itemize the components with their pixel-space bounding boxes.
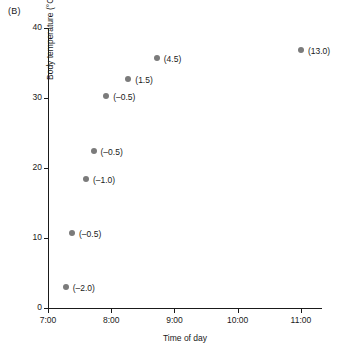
x-tick-mark [48, 309, 49, 313]
data-point-label: (–0.5) [101, 147, 123, 157]
x-tick-mark [111, 309, 112, 313]
panel-label: (B) [8, 6, 21, 16]
data-point-label: (–2.0) [73, 283, 95, 293]
y-tick-label: 30 [16, 92, 42, 102]
x-axis-line [48, 308, 322, 309]
y-tick-label: 20 [16, 162, 42, 172]
data-point-label: (13.0) [308, 46, 330, 56]
data-point [69, 230, 75, 236]
data-point-label: (4.5) [164, 54, 181, 64]
y-tick-mark [44, 238, 48, 239]
y-tick-label: 10 [16, 232, 42, 242]
x-axis-title: Time of day [48, 333, 322, 343]
data-point [63, 284, 69, 290]
data-point-label: (1.5) [135, 75, 152, 85]
y-tick-label: 40 [16, 22, 42, 32]
x-tick-mark [238, 309, 239, 313]
x-tick-label: 9:00 [154, 315, 194, 325]
y-tick-mark [44, 168, 48, 169]
x-tick-mark [174, 309, 175, 313]
data-point [298, 47, 304, 53]
data-point [83, 176, 89, 182]
data-point-label: (–0.5) [79, 229, 101, 239]
plot-area: 010203040 7:008:009:0010:0011:00 Body te… [48, 28, 322, 309]
data-point [91, 148, 97, 154]
x-tick-label: 11:00 [281, 315, 321, 325]
x-tick-label: 10:00 [218, 315, 258, 325]
data-point [154, 55, 160, 61]
data-point [125, 76, 131, 82]
y-axis-title: Body temperature (°C) [45, 0, 55, 80]
data-point-label: (–1.0) [93, 175, 115, 185]
data-point-label: (–0.5) [113, 92, 135, 102]
x-tick-label: 8:00 [91, 315, 131, 325]
x-tick-mark [301, 309, 302, 313]
figure-panel-b: (B) 010203040 7:008:009:0010:0011:00 Bod… [0, 0, 338, 353]
y-tick-label: 0 [16, 302, 42, 312]
y-tick-mark [44, 98, 48, 99]
x-tick-label: 7:00 [28, 315, 68, 325]
data-point [103, 93, 109, 99]
